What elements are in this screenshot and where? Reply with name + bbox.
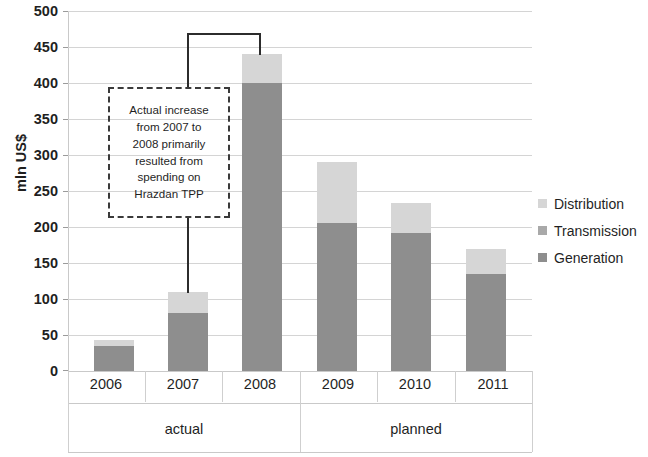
callout-connector-left-lower	[187, 218, 189, 293]
y-tick-label-300: 300	[0, 147, 58, 163]
gridline-100	[68, 299, 532, 300]
x-axis-sep-right	[532, 371, 533, 452]
bar-segment-generation-2006[interactable]	[94, 346, 134, 371]
bar-segment-generation-2010[interactable]	[391, 233, 431, 371]
bar-segment-distribution-2009[interactable]	[317, 162, 357, 223]
gridline-50	[68, 335, 532, 336]
legend-item-generation[interactable]: Generation	[538, 244, 648, 271]
y-tick-mark-250	[63, 191, 68, 192]
callout-connector-right-down	[259, 33, 261, 55]
x-tick-label-2007: 2007	[145, 376, 221, 392]
y-tick-label-500: 500	[0, 3, 58, 19]
annotation-line-2: from 2007 to	[136, 120, 201, 133]
callout-connector-left-upper	[187, 33, 189, 87]
y-tick-label-450: 450	[0, 39, 58, 55]
legend-swatch-distribution	[538, 199, 547, 208]
y-tick-mark-500	[63, 11, 68, 12]
y-tick-label-400: 400	[0, 75, 58, 91]
x-tick-label-2008: 2008	[222, 376, 298, 392]
legend-swatch-transmission	[538, 226, 547, 235]
y-tick-mark-450	[63, 47, 68, 48]
y-tick-mark-350	[63, 119, 68, 120]
x-group-label-planned: planned	[300, 421, 532, 437]
y-tick-mark-300	[63, 155, 68, 156]
bar-segment-generation-2011[interactable]	[466, 274, 506, 371]
x-tick-label-2009: 2009	[300, 376, 376, 392]
x-group-label-actual: actual	[68, 421, 300, 437]
bar-segment-distribution-2007[interactable]	[168, 292, 208, 314]
bar-segment-generation-2009[interactable]	[317, 223, 357, 371]
annotation-line-5: spending on	[137, 170, 200, 183]
annotation-line-1: Actual increase	[129, 103, 208, 116]
bar-segment-distribution-2011[interactable]	[466, 249, 506, 274]
callout-connector-bracket-top	[187, 33, 261, 35]
y-tick-mark-150	[63, 263, 68, 264]
bar-2010[interactable]	[391, 203, 431, 371]
bar-2008[interactable]	[242, 54, 282, 371]
bar-segment-generation-2007[interactable]	[168, 313, 208, 371]
gridline-450	[68, 47, 532, 48]
bar-2011[interactable]	[466, 249, 506, 371]
x-tick-label-2006: 2006	[68, 376, 144, 392]
y-tick-mark-100	[63, 299, 68, 300]
bar-2007[interactable]	[168, 292, 208, 371]
y-tick-label-200: 200	[0, 219, 58, 235]
bar-segment-distribution-2010[interactable]	[391, 203, 431, 233]
y-tick-label-100: 100	[0, 291, 58, 307]
x-tick-label-2011: 2011	[455, 376, 531, 392]
y-tick-label-350: 350	[0, 111, 58, 127]
y-tick-label-50: 50	[0, 327, 58, 343]
bar-segment-distribution-2006[interactable]	[94, 340, 134, 346]
gridline-200	[68, 227, 532, 228]
annotation-line-4: resulted from	[135, 154, 203, 167]
legend: Distribution Transmission Generation	[538, 190, 648, 271]
annotation-text: Actual increase from 2007 to 2008 primar…	[125, 102, 212, 203]
y-tick-label-0: 0	[0, 363, 58, 379]
x-tick-label-2010: 2010	[377, 376, 453, 392]
annotation-line-3: 2008 primarily	[133, 137, 206, 150]
legend-item-distribution[interactable]: Distribution	[538, 190, 648, 217]
bar-2009[interactable]	[317, 162, 357, 371]
annotation-line-6: Hrazdan TPP	[134, 187, 203, 200]
y-tick-label-250: 250	[0, 183, 58, 199]
legend-label-transmission: Transmission	[554, 223, 637, 239]
legend-swatch-generation	[538, 253, 547, 262]
stacked-bar-chart: mln US$ 500 450 400 350 300 250 200 150 …	[0, 0, 648, 457]
gridline-150	[68, 263, 532, 264]
gridline-500	[68, 11, 532, 12]
annotation-callout: Actual increase from 2007 to 2008 primar…	[108, 87, 230, 218]
legend-label-distribution: Distribution	[554, 196, 624, 212]
y-tick-mark-50	[63, 335, 68, 336]
legend-label-generation: Generation	[554, 250, 623, 266]
legend-item-transmission[interactable]: Transmission	[538, 217, 648, 244]
bar-2006[interactable]	[94, 340, 134, 371]
gridline-400	[68, 83, 532, 84]
y-tick-label-150: 150	[0, 255, 58, 271]
bar-segment-distribution-2008[interactable]	[242, 54, 282, 83]
bar-segment-generation-2008[interactable]	[242, 83, 282, 371]
y-tick-mark-400	[63, 83, 68, 84]
y-tick-mark-200	[63, 227, 68, 228]
